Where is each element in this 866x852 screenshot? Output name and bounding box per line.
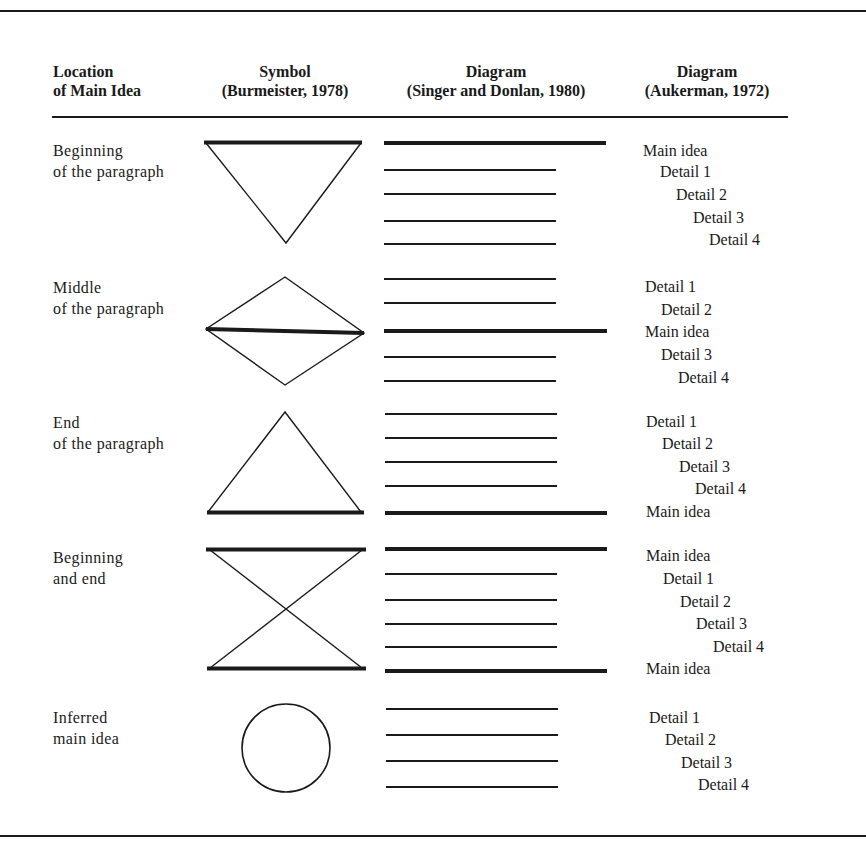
aukerman-item: Detail 1 (645, 275, 696, 298)
aukerman-item: Detail 1 (663, 567, 714, 590)
singer-donlan-lines-end (385, 414, 607, 513)
diamond-icon (206, 277, 364, 385)
aukerman-item: Detail 4 (709, 228, 760, 251)
aukerman-item: Detail 1 (660, 160, 711, 183)
aukerman-item: Main idea (646, 544, 710, 567)
diagram-artwork (0, 0, 866, 852)
aukerman-item: Detail 2 (661, 298, 712, 321)
singer-donlan-lines-beginning-and-end (385, 549, 607, 671)
aukerman-item: Detail 2 (676, 183, 727, 206)
singer-donlan-lines-middle (384, 279, 607, 381)
hourglass-icon (206, 550, 366, 669)
aukerman-item: Main idea (646, 657, 710, 680)
triangle-icon (207, 412, 364, 513)
aukerman-item: Detail 3 (679, 455, 730, 478)
aukerman-item: Detail 1 (649, 706, 700, 729)
aukerman-item: Detail 4 (695, 477, 746, 500)
aukerman-item: Main idea (645, 320, 709, 343)
aukerman-item: Detail 4 (698, 773, 749, 796)
aukerman-item: Detail 3 (693, 206, 744, 229)
inverted-triangle-icon (204, 143, 362, 244)
aukerman-item: Detail 4 (713, 635, 764, 658)
aukerman-item: Main idea (643, 139, 707, 162)
singer-donlan-lines-inferred (386, 709, 558, 787)
aukerman-item: Detail 2 (680, 590, 731, 613)
aukerman-item: Detail 3 (681, 751, 732, 774)
aukerman-item: Main idea (646, 500, 710, 523)
aukerman-item: Detail 3 (661, 343, 712, 366)
singer-donlan-lines-beginning (384, 143, 606, 244)
aukerman-item: Detail 3 (696, 612, 747, 635)
aukerman-item: Detail 1 (646, 410, 697, 433)
circle-icon (242, 704, 330, 792)
aukerman-item: Detail 2 (662, 432, 713, 455)
aukerman-item: Detail 4 (678, 366, 729, 389)
aukerman-item: Detail 2 (665, 728, 716, 751)
